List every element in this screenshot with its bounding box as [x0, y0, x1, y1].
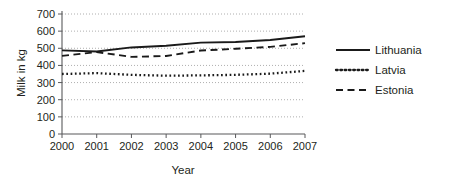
x-tick-label-2002: 2002 — [119, 140, 143, 152]
x-tick-labels: 2000 2001 2002 2003 2004 2005 2006 2007 — [50, 140, 317, 152]
x-tick-marks — [62, 134, 305, 138]
y-tick-labels: 700 600 500 400 300 200 100 0 — [37, 8, 55, 140]
legend-label-lithuania: Lithuania — [375, 44, 422, 56]
y-tick-label-300: 300 — [37, 77, 55, 89]
data-series-layer — [62, 36, 305, 75]
chart-legend: LithuaniaLatviaEstonia — [336, 44, 422, 96]
y-tick-label-600: 600 — [37, 25, 55, 37]
y-tick-label-400: 400 — [37, 59, 55, 71]
legend-label-latvia: Latvia — [375, 64, 406, 76]
x-tick-label-2003: 2003 — [154, 140, 178, 152]
y-gridlines — [62, 14, 305, 117]
y-tick-label-500: 500 — [37, 42, 55, 54]
x-tick-label-2006: 2006 — [258, 140, 282, 152]
x-tick-label-2004: 2004 — [189, 140, 213, 152]
y-tick-label-700: 700 — [37, 8, 55, 20]
legend-item-estonia[interactable]: Estonia — [336, 84, 414, 96]
x-axis-title: Year — [171, 164, 194, 176]
series-line-estonia — [62, 43, 305, 57]
line-chart: 700 600 500 400 300 200 100 0 2000 2001 … — [0, 0, 449, 185]
axes — [62, 11, 305, 134]
x-tick-label-2005: 2005 — [223, 140, 247, 152]
chart-figure: 700 600 500 400 300 200 100 0 2000 2001 … — [0, 0, 449, 185]
y-tick-label-200: 200 — [37, 94, 55, 106]
y-tick-marks — [58, 14, 62, 134]
x-tick-label-2000: 2000 — [50, 140, 74, 152]
series-line-lithuania — [62, 36, 305, 51]
legend-label-estonia: Estonia — [375, 84, 414, 96]
y-tick-label-0: 0 — [49, 128, 55, 140]
x-tick-label-2007: 2007 — [293, 140, 317, 152]
x-tick-label-2001: 2001 — [84, 140, 108, 152]
y-axis-title: Milk in kg — [15, 49, 27, 97]
series-line-latvia — [62, 71, 305, 76]
legend-item-lithuania[interactable]: Lithuania — [336, 44, 422, 56]
legend-item-latvia[interactable]: Latvia — [336, 64, 406, 76]
y-tick-label-100: 100 — [37, 111, 55, 123]
